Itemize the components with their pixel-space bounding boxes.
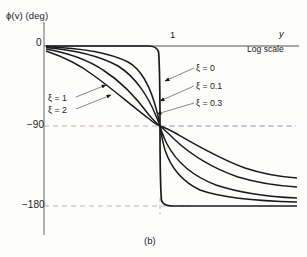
x-axis-title: y xyxy=(279,29,284,39)
phase-plot-figure: ϕ(v) (deg) y Log scale 0 −90 −180 1 ξ = … xyxy=(0,0,307,257)
legend-label-xi-0: ξ = 0 xyxy=(196,64,215,73)
leader-xi-1 xyxy=(76,85,106,97)
figure-caption: (b) xyxy=(144,236,156,246)
x-axis-scale-label: Log scale xyxy=(247,45,284,54)
leader-xi-0 xyxy=(165,68,194,81)
legend-label-xi-0.1: ξ = 0.1 xyxy=(196,82,222,91)
legend-label-xi-1: ξ = 1 xyxy=(48,94,67,103)
curve-xi-03 xyxy=(46,48,297,199)
curve-xi-2 xyxy=(46,51,297,178)
legend-label-xi-0.3: ξ = 0.3 xyxy=(196,99,222,108)
y-tick-label-0: 0 xyxy=(36,38,42,48)
y-tick-label-neg180: −180 xyxy=(22,200,45,210)
leader-xi-03 xyxy=(157,103,194,114)
y-tick-label-neg90: −90 xyxy=(27,120,44,130)
plot-canvas xyxy=(0,0,307,257)
x-tick-label-1: 1 xyxy=(170,30,175,40)
y-axis-title: ϕ(v) (deg) xyxy=(6,11,48,21)
curve-xi-01 xyxy=(46,47,297,202)
curve-xi-1 xyxy=(46,49,297,187)
leader-xi-01 xyxy=(160,86,194,101)
leader-xi-2 xyxy=(76,95,111,109)
legend-label-xi-2: ξ = 2 xyxy=(48,106,67,115)
